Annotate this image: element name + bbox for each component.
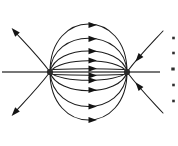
arrowhead-arc-upper-inner	[89, 48, 97, 54]
edge-mark-2	[172, 52, 175, 55]
edge-mark-5	[172, 100, 175, 103]
arrowhead-arc-upper-outer	[89, 22, 97, 28]
arrowhead-arc-lower-near	[89, 77, 97, 83]
edge-mark-4	[172, 84, 175, 87]
arrowhead-arc-upper-mid	[89, 36, 97, 42]
edge-marks-group	[171, 37, 175, 103]
enter-lower-right	[127, 72, 163, 113]
arrowhead-arc-lower-mid	[89, 103, 97, 109]
field-line-canvas	[0, 0, 178, 146]
arrowhead-line-axis-center-lower	[89, 72, 97, 78]
edge-mark-3	[171, 68, 174, 71]
arrowhead-line-axis-center	[89, 66, 97, 72]
escape-lower-left	[14, 72, 50, 113]
sink-pole-right	[124, 69, 130, 75]
arrowhead-arc-lower-outer	[89, 117, 97, 123]
edge-mark-1	[172, 37, 175, 40]
arrowhead-arc-upper-near	[89, 57, 97, 63]
arrowhead-arc-lower-inner	[89, 87, 97, 93]
source-pole-left	[47, 69, 53, 75]
escape-upper-left	[14, 31, 50, 72]
dipole-field-figure	[0, 0, 178, 146]
enter-upper-right	[127, 31, 163, 72]
